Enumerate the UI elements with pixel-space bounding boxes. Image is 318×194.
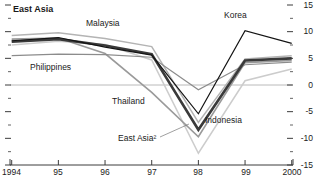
y-tick-label: 10 — [289, 27, 313, 36]
y-tick-label: -10 — [289, 134, 313, 143]
x-tick-label: 96 — [100, 168, 109, 177]
series-label-east-asia: East Asia² — [118, 133, 156, 143]
x-tick-label: 95 — [53, 168, 62, 177]
x-tick-label: 1994 — [2, 168, 21, 177]
y-tick-label: 15 — [289, 1, 313, 10]
y-tick-label: 5 — [289, 54, 313, 63]
chart-title: East Asia — [13, 4, 53, 14]
chart-panel: East Asia Malaysia Korea Philippines Tha… — [0, 0, 318, 194]
chart-canvas — [0, 0, 318, 194]
x-tick-label: 98 — [193, 168, 202, 177]
x-tick-label: 99 — [241, 168, 250, 177]
series-line-korea — [12, 31, 292, 114]
x-tick-label: 2000 — [283, 168, 302, 177]
series-label-korea: Korea — [224, 10, 247, 20]
x-tick-label: 97 — [147, 168, 156, 177]
series-label-indonesia: Indonesia — [205, 115, 242, 125]
series-label-thailand: Thailand — [112, 96, 145, 106]
y-tick-label: -5 — [289, 107, 313, 116]
y-tick-label: 0 — [289, 81, 313, 90]
series-label-philippines: Philippines — [30, 62, 71, 72]
series-line-eastasia — [12, 39, 292, 130]
series-label-malaysia: Malaysia — [86, 18, 120, 28]
series-line-malaysia — [12, 33, 292, 123]
